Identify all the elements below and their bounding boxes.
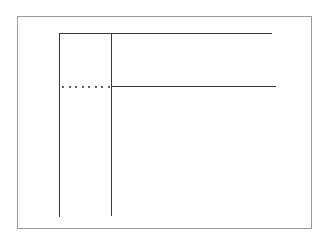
inner-vertical-line xyxy=(111,33,112,216)
dot xyxy=(101,86,103,88)
dot xyxy=(62,86,64,88)
dot xyxy=(75,86,77,88)
diagram-frame xyxy=(17,16,312,229)
dotted-connector-line xyxy=(62,86,110,88)
dot xyxy=(69,86,71,88)
middle-horizontal-line xyxy=(112,86,276,87)
dot xyxy=(95,86,97,88)
top-horizontal-line xyxy=(60,33,272,34)
dot xyxy=(88,86,90,88)
dot xyxy=(108,86,110,88)
dot xyxy=(82,86,84,88)
left-vertical-line xyxy=(59,33,60,217)
